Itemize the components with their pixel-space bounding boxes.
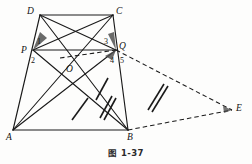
angle-label-3: 3 (104, 38, 108, 46)
angle-label-5: 5 (120, 57, 124, 65)
geometry-canvas (0, 0, 252, 164)
segment-QE (116, 50, 232, 110)
segment-BE (128, 110, 232, 130)
vertex-label-E: E (236, 104, 242, 114)
figure-caption: 图 1-37 (0, 149, 252, 164)
vertex-label-D: D (27, 7, 34, 17)
vertex-label-Q: Q (119, 42, 126, 52)
arrowhead-e (223, 106, 232, 113)
figure-container: D C P Q O A B E 1 2 3 4 5 图 1-37 (0, 0, 252, 164)
segment-AC (13, 15, 113, 130)
vertex-label-O: O (66, 65, 73, 75)
vertex-label-P: P (21, 46, 27, 56)
segment-CP (33, 15, 113, 50)
vertex-label-A: A (6, 133, 12, 143)
vertex-label-B: B (127, 133, 133, 143)
angle-label-2: 2 (31, 57, 35, 65)
angle-label-1: 1 (37, 38, 41, 46)
tick-single-left (72, 98, 88, 120)
angle-label-4: 4 (110, 57, 114, 65)
vertex-label-C: C (116, 7, 122, 17)
